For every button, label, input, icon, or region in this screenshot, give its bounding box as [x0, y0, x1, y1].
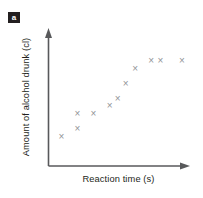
data-point-marker: ×	[115, 93, 121, 104]
data-point-marker: ×	[158, 55, 164, 66]
data-point-marker: ×	[75, 123, 81, 134]
data-point-marker: ×	[179, 55, 185, 66]
data-point-marker: ×	[91, 108, 97, 119]
y-axis-arrowhead	[45, 28, 52, 38]
y-axis-label: Amount of alcohol drunk (cl)	[21, 27, 31, 167]
x-axis-arrowhead	[180, 163, 190, 170]
y-axis	[45, 28, 52, 166]
data-point-marker: ×	[132, 63, 138, 74]
data-point-marker: ×	[58, 131, 64, 142]
data-point-marker: ×	[148, 55, 154, 66]
data-point-markers: ×××××××××××	[58, 55, 185, 143]
data-point-marker: ×	[75, 108, 81, 119]
data-point-marker: ×	[107, 100, 113, 111]
data-point-marker: ×	[123, 78, 129, 89]
x-axis-label: Reaction time (s)	[0, 174, 203, 184]
x-axis	[49, 163, 191, 170]
scatter-plot-figure: a ××××××××××× Reaction time (s) Amount o…	[0, 0, 203, 198]
